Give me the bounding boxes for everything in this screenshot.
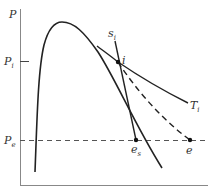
- pi-label: Pi: [3, 55, 14, 70]
- y-axis-label: P: [8, 8, 17, 21]
- actual-process: [118, 62, 190, 140]
- state-es-point: [134, 138, 138, 142]
- si-label: si: [108, 27, 116, 42]
- process-diagram: P Pi Pe si i Ti es e: [0, 0, 208, 192]
- state-i-point: [116, 60, 120, 64]
- i-label: i: [122, 54, 126, 67]
- pe-label: Pe: [3, 134, 16, 149]
- ti-label: Ti: [190, 99, 200, 114]
- saturation-dome: [35, 22, 162, 172]
- e-label: e: [186, 144, 193, 157]
- es-label: es: [131, 143, 142, 158]
- state-e-point: [188, 138, 192, 142]
